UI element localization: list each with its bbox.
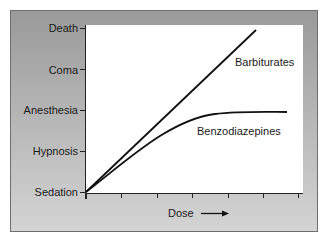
chart-lines: [0, 0, 327, 242]
series-benzodiazepines-line: [86, 112, 287, 192]
series-barbiturates-line: [86, 30, 256, 192]
x-axis-title: Dose: [168, 207, 194, 219]
label-barbiturates: Barbiturates: [235, 56, 294, 68]
label-benzodiazepines: Benzodiazepines: [197, 125, 281, 137]
